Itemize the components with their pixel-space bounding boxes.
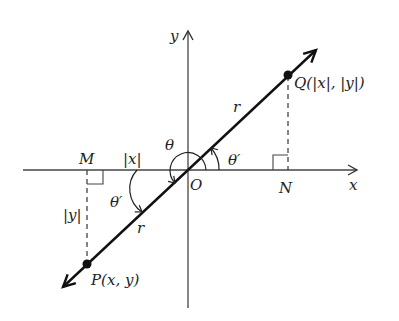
theta-prime-label-upper: θ′ xyxy=(228,151,241,169)
reference-angle-diagram: y x O Q(|x|, |y|) P(x, y) M N r r |x| |y… xyxy=(0,0,399,321)
point-p-label: P(x, y) xyxy=(90,271,139,289)
origin-label: O xyxy=(190,176,202,194)
point-q xyxy=(284,71,293,80)
r-label-upper: r xyxy=(233,98,241,116)
point-p xyxy=(83,260,92,269)
point-n-label: N xyxy=(278,179,293,197)
point-m-label: M xyxy=(78,150,95,168)
abs-y-label: |y| xyxy=(63,206,82,224)
terminal-ray-upper xyxy=(188,50,316,170)
theta-prime-label-lower: θ′ xyxy=(110,193,123,211)
theta-prime-arc-upper xyxy=(211,148,219,170)
terminal-ray-lower xyxy=(63,170,188,287)
right-angle-marker-n xyxy=(273,155,288,170)
right-angle-marker-m xyxy=(87,170,103,184)
theta-prime-arc-lower xyxy=(130,170,142,212)
point-q-label: Q(|x|, |y|) xyxy=(294,74,365,92)
x-axis-label: x xyxy=(349,176,358,194)
y-axis-label: y xyxy=(169,27,179,45)
r-label-lower: r xyxy=(137,219,145,237)
theta-label: θ xyxy=(165,136,174,154)
abs-x-label: |x| xyxy=(123,150,142,168)
